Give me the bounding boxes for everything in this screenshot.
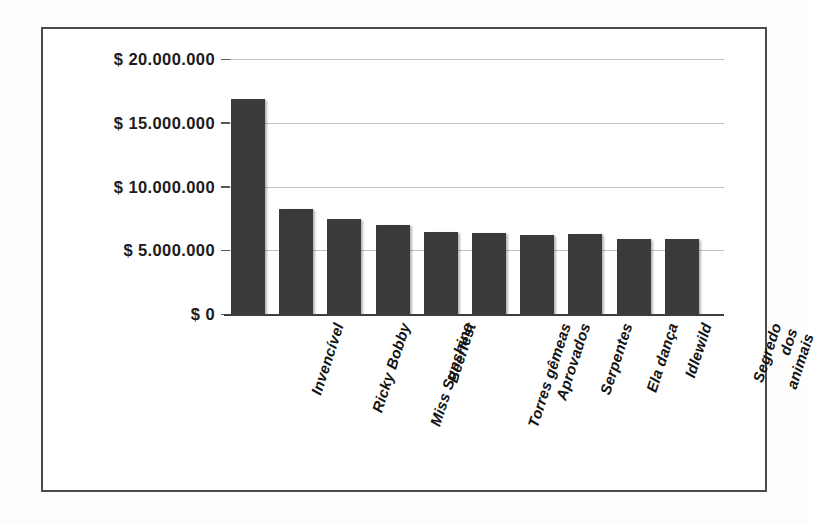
gridline xyxy=(224,59,724,60)
y-axis-tick-label: $ 20.000.000 xyxy=(43,50,215,69)
y-axis-tick-mark xyxy=(221,186,230,188)
bar-chart-plot: $ 20.000.000$ 15.000.000$ 10.000.000$ 5.… xyxy=(43,29,769,494)
bar xyxy=(520,235,554,314)
x-axis-baseline xyxy=(224,314,724,316)
x-axis-category-label: Idlewild xyxy=(682,321,715,380)
bar xyxy=(617,239,651,314)
y-axis-tick-mark xyxy=(221,122,230,124)
bar xyxy=(568,234,602,314)
bar xyxy=(279,209,313,314)
y-axis-tick-mark xyxy=(221,250,230,252)
x-axis-category-label: Segredo dos animais xyxy=(745,321,817,411)
bar xyxy=(376,225,410,314)
bar xyxy=(424,232,458,314)
x-axis-category-label: Serpentes xyxy=(598,321,637,397)
y-axis-tick-label: $ 15.000.000 xyxy=(43,113,215,132)
gridline xyxy=(224,123,724,124)
y-axis-tick-label: $ 5.000.000 xyxy=(43,241,215,260)
gridline xyxy=(224,187,724,188)
x-axis-category-label: Ricky Bobby xyxy=(369,321,414,415)
bar xyxy=(472,233,506,314)
chart-frame: $ 20.000.000$ 15.000.000$ 10.000.000$ 5.… xyxy=(41,27,767,492)
y-axis-tick-label: $ 10.000.000 xyxy=(43,177,215,196)
bar xyxy=(231,99,265,314)
x-axis-category-label: Invencível xyxy=(309,321,348,397)
bar xyxy=(665,239,699,314)
y-axis-tick-mark xyxy=(221,59,230,61)
bar xyxy=(327,219,361,314)
y-axis-tick-label: $ 0 xyxy=(43,305,215,324)
x-axis-category-label: Ela dança xyxy=(644,321,682,395)
